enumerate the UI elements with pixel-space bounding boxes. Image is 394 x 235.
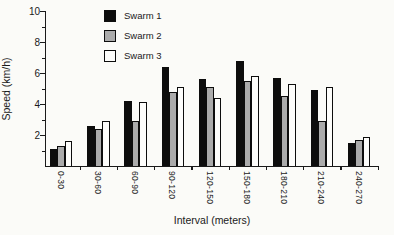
x-tick-label: 60-90 [130, 171, 140, 194]
y-minor-tick [42, 58, 45, 59]
x-axis-line [45, 166, 379, 167]
bar-swarm-2 [318, 121, 326, 166]
bar-swarm-3 [288, 84, 296, 166]
bar-group-240-270 [348, 137, 371, 166]
bar-swarm-1 [50, 149, 58, 166]
bar-swarm-2 [132, 121, 140, 166]
bar-swarm-1 [348, 143, 356, 166]
y-minor-tick [42, 89, 45, 90]
bar-swarm-2 [355, 140, 363, 166]
y-axis-tick-labels: 108642 [18, 11, 40, 166]
bar-group-30-60 [87, 121, 110, 166]
legend-label: Swarm 1 [124, 10, 161, 21]
bar-group-180-210 [273, 78, 296, 166]
bar-group-120-150 [199, 79, 222, 166]
y-minor-tick [42, 120, 45, 121]
bar-swarm-1 [162, 67, 170, 166]
bar-swarm-2 [95, 129, 103, 166]
legend-swatch [104, 50, 116, 62]
bar-swarm-3 [65, 141, 73, 166]
bar-group-150-180 [236, 61, 259, 166]
bar-swarm-1 [87, 126, 95, 166]
legend-swatch [104, 10, 116, 22]
x-tick [117, 166, 118, 170]
bar-group-90-120 [162, 67, 185, 166]
x-tick-label: 150-180 [242, 171, 252, 204]
legend-label: Swarm 2 [124, 30, 161, 41]
bar-swarm-2 [57, 146, 65, 166]
y-axis-line [45, 11, 46, 166]
x-tick [378, 166, 379, 170]
bar-group-60-90 [124, 101, 147, 166]
legend: Swarm 1Swarm 2Swarm 3 [104, 9, 161, 69]
bar-swarm-1 [124, 101, 132, 166]
bar-chart-figure: Speed (km/h) 108642 0-3030-6060-9090-120… [0, 0, 394, 235]
y-major-tick [40, 42, 45, 43]
x-axis-title: Interval (meters) [45, 214, 379, 226]
bar-swarm-1 [236, 61, 244, 166]
bar-swarm-3 [214, 98, 222, 166]
x-tick-label: 0-30 [56, 171, 66, 189]
y-major-tick [40, 104, 45, 105]
plot-area [45, 11, 379, 166]
x-tick-label: 90-120 [167, 171, 177, 199]
legend-label: Swarm 3 [124, 50, 161, 61]
y-major-tick [40, 135, 45, 136]
x-tick [229, 166, 230, 170]
y-tick-label: 10 [29, 7, 40, 17]
x-tick-label: 30-60 [93, 171, 103, 194]
bar-swarm-2 [281, 96, 289, 166]
bar-swarm-2 [206, 87, 214, 166]
bar-swarm-2 [169, 92, 177, 166]
bar-swarm-3 [251, 76, 259, 166]
x-tick [191, 166, 192, 170]
bar-swarm-3 [326, 87, 334, 166]
x-tick-label: 120-150 [205, 171, 215, 204]
x-tick [266, 166, 267, 170]
legend-item: Swarm 3 [104, 49, 161, 62]
x-tick [80, 166, 81, 170]
x-tick-label: 180-210 [279, 171, 289, 204]
y-minor-tick [42, 27, 45, 28]
y-major-tick [40, 11, 45, 12]
bar-swarm-1 [311, 90, 319, 166]
bar-group-0-30 [50, 141, 73, 166]
bar-swarm-1 [273, 78, 281, 166]
x-tick [154, 166, 155, 170]
legend-swatch [104, 30, 116, 42]
bar-swarm-3 [102, 121, 110, 166]
bar-swarm-3 [139, 102, 147, 166]
bar-swarm-3 [177, 87, 185, 166]
x-tick-label: 210-240 [316, 171, 326, 204]
x-tick-label: 240-270 [354, 171, 364, 204]
legend-item: Swarm 1 [104, 9, 161, 22]
y-axis-title: Speed (km/h) [0, 19, 14, 159]
bar-swarm-3 [363, 137, 371, 166]
bar-group-210-240 [311, 87, 334, 166]
x-tick [340, 166, 341, 170]
y-major-tick [40, 73, 45, 74]
bar-swarm-2 [244, 81, 252, 166]
bar-swarm-1 [199, 79, 207, 166]
x-axis-tick-labels: 0-3030-6060-9090-120120-150150-180180-21… [45, 171, 379, 209]
x-tick [303, 166, 304, 170]
y-minor-tick [42, 151, 45, 152]
legend-item: Swarm 2 [104, 29, 161, 42]
